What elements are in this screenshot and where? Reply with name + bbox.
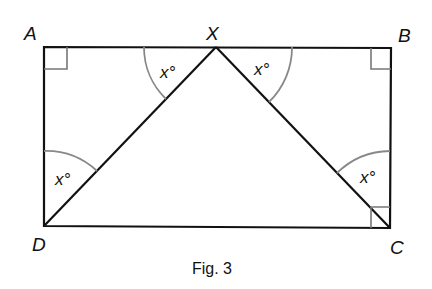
vertex-label-c: C	[390, 237, 404, 258]
vertex-label-x: X	[205, 23, 220, 44]
angle-arc-x-right	[269, 47, 292, 102]
rectangle-abcd	[44, 47, 391, 228]
line-xd	[44, 47, 216, 226]
geometry-figure: A X B D C x° x° x° x° Fig. 3	[0, 0, 432, 289]
vertex-label-d: D	[32, 234, 46, 255]
vertex-label-a: A	[23, 23, 37, 44]
line-xc	[216, 47, 390, 228]
vertex-label-b: B	[398, 25, 411, 46]
right-angle-marker-a	[44, 47, 67, 69]
angle-label-x-right: x°	[253, 60, 270, 79]
angle-label-x-left: x°	[159, 63, 176, 82]
angle-arc-d	[44, 151, 97, 171]
right-angle-marker-b	[371, 48, 391, 69]
angle-label-c: x°	[359, 168, 376, 187]
angle-label-d: x°	[54, 170, 71, 189]
figure-caption: Fig. 3	[192, 260, 232, 277]
